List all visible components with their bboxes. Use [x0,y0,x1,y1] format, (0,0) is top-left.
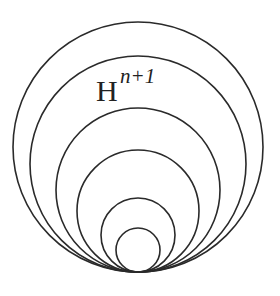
circle-6 [116,228,160,272]
circle-4 [77,150,199,272]
label-base: H [96,74,118,108]
circle-1 [13,22,263,272]
diagram-canvas: H n+1 [0,0,280,296]
label-superscript: n+1 [120,64,155,89]
circle-5 [101,198,175,272]
nested-circles [0,0,280,296]
